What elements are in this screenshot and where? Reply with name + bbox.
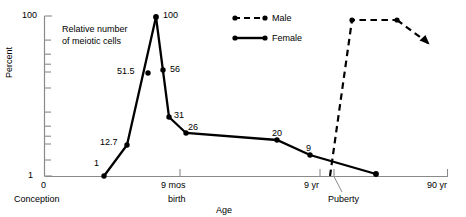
data-label-20: 20 xyxy=(272,128,282,138)
data-label-31: 31 xyxy=(174,110,184,120)
female-point-end xyxy=(373,171,379,177)
x-tick-3-bottom: Puberty xyxy=(328,194,359,204)
female-series-path xyxy=(104,17,376,176)
data-label-51-5: 51.5 xyxy=(117,66,135,76)
x-tick-1-bottom: birth xyxy=(168,194,186,204)
x-axis-title: Age xyxy=(216,205,232,215)
y-axis-tick-top: 100 xyxy=(22,10,37,20)
legend-item-male: Male xyxy=(272,13,292,23)
data-label-56: 56 xyxy=(170,64,180,74)
x-tick-4-top: 90 yr xyxy=(427,180,447,190)
relative-number-annotation-line2: of meiotic cells xyxy=(62,36,121,46)
data-label-12-7: 12.7 xyxy=(100,137,118,147)
puberty-leader-line xyxy=(334,177,342,193)
y-axis-tick-bottom: 1 xyxy=(28,170,33,180)
meiotic-cells-chart: Percent 100 1 0 Conception 9 mos birth 9… xyxy=(0,0,466,217)
male-series-arrowhead xyxy=(420,35,430,45)
x-tick-1-top: 9 mos xyxy=(161,180,186,190)
female-series-line xyxy=(104,17,376,176)
data-label-100: 100 xyxy=(163,10,178,20)
female-point-12.7 xyxy=(124,142,129,147)
legend-female-glyph xyxy=(232,35,267,40)
x-tick-0-top: 0 xyxy=(41,180,46,190)
data-label-1: 1 xyxy=(94,158,99,168)
y-axis-ticks xyxy=(45,16,53,176)
y-axis-title: Percent xyxy=(4,47,14,78)
legend-male-glyph xyxy=(232,15,267,20)
female-point-56 xyxy=(160,67,165,72)
data-label-26: 26 xyxy=(188,122,198,132)
relative-number-annotation-line1: Relative number xyxy=(62,24,128,34)
x-axis-ticks xyxy=(180,169,448,177)
male-series-line xyxy=(330,20,397,176)
legend-item-female: Female xyxy=(272,33,302,43)
x-tick-0-bottom: Conception xyxy=(14,194,60,204)
x-tick-2-top: 9 yr xyxy=(304,180,319,190)
data-label-9: 9 xyxy=(306,143,311,153)
female-point-100 xyxy=(153,14,159,20)
female-point-31 xyxy=(166,114,171,119)
female-point-51.5 xyxy=(145,70,150,75)
female-point-1 xyxy=(101,173,106,178)
